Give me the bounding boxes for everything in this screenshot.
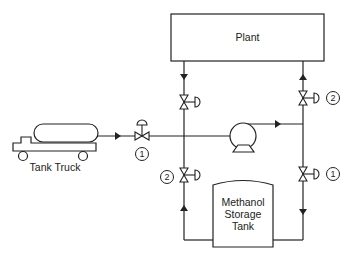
valve-tag-truck: 1 [135, 147, 149, 161]
control-valve-left-upper [180, 95, 200, 109]
tank-truck-label: Tank Truck [20, 161, 90, 173]
plant-label: Plant [171, 31, 324, 43]
control-valve-1 [135, 120, 149, 140]
control-valve-left-lower [180, 168, 200, 182]
valve-tag-left-lower: 2 [160, 170, 174, 184]
valve-tag-right-upper: 2 [326, 91, 340, 105]
tank-truck-shape [13, 124, 98, 161]
storage-tank-label: Methanol Storage Tank [213, 196, 273, 232]
control-valve-right-lower [299, 167, 319, 181]
control-valve-right-upper [299, 91, 319, 105]
valve-tag-right-lower: 1 [326, 167, 340, 181]
